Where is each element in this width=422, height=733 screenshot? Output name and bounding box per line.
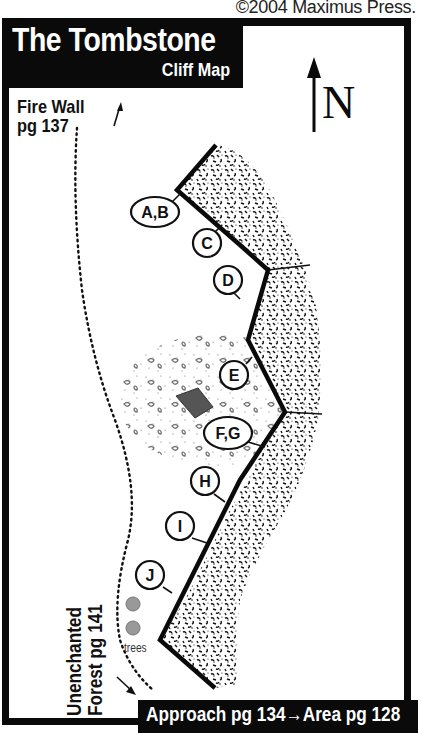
marker-i[interactable]: I <box>166 512 194 540</box>
unenchanted-label-line2: Forest pg 141 <box>85 604 106 716</box>
north-label: N <box>322 77 355 128</box>
svg-text:I: I <box>178 518 182 535</box>
arrow-down-right-icon <box>117 677 136 695</box>
svg-text:E: E <box>229 367 240 384</box>
title-bar: The Tombstone Cliff Map <box>2 18 243 88</box>
fire-wall-page[interactable]: pg 137 <box>17 116 69 135</box>
svg-text:C: C <box>201 235 213 252</box>
svg-text:D: D <box>222 272 234 289</box>
approach-area-link[interactable]: Approach pg 134→Area pg 128 <box>146 703 400 726</box>
trees-label: trees <box>124 641 147 655</box>
marker-e[interactable]: E <box>220 361 248 389</box>
marker-h[interactable]: H <box>191 467 219 495</box>
unenchanted-forest-label[interactable]: Unenchanted Forest pg 141 <box>64 604 106 716</box>
map-title: The Tombstone <box>12 21 216 59</box>
marker-fg[interactable]: F,G <box>204 417 252 449</box>
marker-d[interactable]: D <box>214 266 242 294</box>
tree-icon <box>126 597 140 611</box>
tree-icon <box>126 621 140 635</box>
svg-text:A,B: A,B <box>141 204 169 221</box>
svg-text:H: H <box>199 473 211 490</box>
marker-c[interactable]: C <box>193 229 221 257</box>
unenchanted-label-line1: Unenchanted <box>64 604 85 716</box>
map-subtitle: Cliff Map <box>36 59 230 81</box>
marker-j[interactable]: J <box>136 561 164 589</box>
north-arrow-icon: N <box>307 57 355 132</box>
arrow-up-icon <box>114 102 123 126</box>
footer-bar: Approach pg 134→Area pg 128 <box>138 700 418 733</box>
svg-text:F,G: F,G <box>216 425 241 442</box>
marker-ab[interactable]: A,B <box>131 197 179 227</box>
svg-text:J: J <box>146 567 155 584</box>
fire-wall-label[interactable]: Fire Wall <box>17 97 84 116</box>
